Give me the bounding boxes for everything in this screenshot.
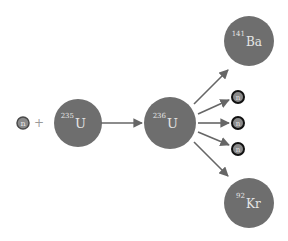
arrow-to-neutron-3 (198, 132, 229, 145)
ba141-mass-number: 141 (232, 30, 245, 38)
product-neutron-3: n (232, 143, 244, 155)
krypton-92-nucleus: 92 Kr (224, 178, 274, 228)
fission-diagram: n + 235 U 236 U 141 Ba n n n 92 (0, 0, 288, 241)
arrow-to-krypton (194, 142, 228, 176)
neutron-label: n (236, 94, 241, 102)
incoming-neutron: n (17, 117, 29, 129)
uranium-235-nucleus: 235 U (54, 99, 102, 147)
neutron-label: n (20, 119, 25, 128)
u235-symbol: U (75, 116, 86, 131)
product-neutron-1: n (232, 91, 244, 103)
arrow-to-barium (194, 70, 228, 104)
neutron-label: n (236, 120, 241, 128)
u235-mass-number: 235 (61, 112, 74, 120)
neutron-label: n (236, 146, 241, 154)
u236-mass-number: 236 (153, 112, 167, 120)
ba141-symbol: Ba (246, 35, 262, 49)
kr92-symbol: Kr (246, 197, 261, 211)
plus-sign: + (34, 116, 44, 130)
product-neutron-2: n (232, 117, 244, 129)
uranium-236-nucleus: 236 U (144, 97, 196, 149)
kr92-mass-number: 92 (236, 192, 245, 200)
arrow-to-neutron-1 (198, 100, 229, 114)
u236-symbol: U (167, 116, 178, 131)
barium-141-nucleus: 141 Ba (224, 16, 274, 66)
